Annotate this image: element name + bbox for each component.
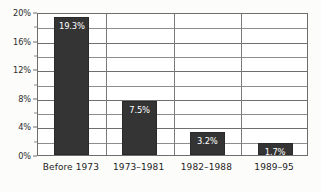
bar-chart-figure: 0%4%8%12%16%20% 19.3%7.5%3.2%1.7% Before… bbox=[0, 0, 321, 192]
bar-value-label: 19.3% bbox=[55, 21, 88, 31]
category-separator bbox=[174, 14, 175, 155]
category-separator bbox=[106, 14, 107, 155]
bar-value-label: 1.7% bbox=[259, 147, 292, 157]
y-axis-tick-label: 16% bbox=[13, 37, 31, 47]
bar: 7.5% bbox=[122, 101, 157, 155]
bar-value-label: 7.5% bbox=[123, 105, 156, 115]
bar-value-label: 3.2% bbox=[191, 136, 224, 146]
x-axis: Before 19731973–19811982–19881989–95 bbox=[37, 160, 308, 184]
y-axis-tick-label: 4% bbox=[18, 122, 31, 132]
plot-area: 19.3%7.5%3.2%1.7% bbox=[37, 13, 308, 156]
bar: 3.2% bbox=[190, 132, 225, 155]
bar: 1.7% bbox=[258, 143, 293, 155]
y-axis-tick-label: 20% bbox=[13, 8, 31, 18]
x-axis-tick-label: 1973–1981 bbox=[105, 162, 173, 172]
y-axis-tick-label: 0% bbox=[18, 151, 31, 161]
y-axis: 0%4%8%12%16%20% bbox=[0, 0, 37, 192]
x-axis-tick-label: 1982–1988 bbox=[173, 162, 241, 172]
x-axis-tick-label: Before 1973 bbox=[37, 162, 105, 172]
bar: 19.3% bbox=[54, 17, 89, 155]
y-axis-tick-label: 8% bbox=[18, 94, 31, 104]
category-separator bbox=[241, 14, 242, 155]
x-axis-tick-label: 1989–95 bbox=[240, 162, 308, 172]
y-axis-tick-label: 12% bbox=[13, 65, 31, 75]
